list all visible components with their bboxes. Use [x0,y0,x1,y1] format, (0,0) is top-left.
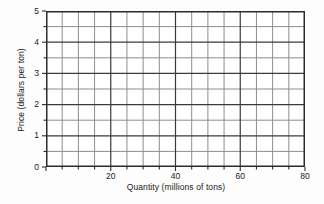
chart-figure: Price (dollars per ton) 012345 20406080 … [0,0,324,204]
grid-lines [46,11,305,167]
y-axis-tick-label: 5 [19,7,39,16]
plot-area [46,11,305,167]
y-axis-title: Price (dollars per ton) [14,10,28,170]
y-axis-tick-label: 1 [19,131,39,140]
y-axis-tick-label: 3 [19,69,39,78]
x-axis-tick-label: 60 [225,171,255,181]
x-axis-title: Quantity (millions of tons) [46,182,306,192]
x-axis-tick-label: 20 [96,171,126,181]
x-axis-tick-label: 80 [290,171,320,181]
y-axis-tick-label: 2 [19,100,39,109]
y-axis-tick-label: 4 [19,38,39,47]
x-axis-tick-label: 40 [161,171,191,181]
y-axis-tick-label: 0 [19,163,39,172]
